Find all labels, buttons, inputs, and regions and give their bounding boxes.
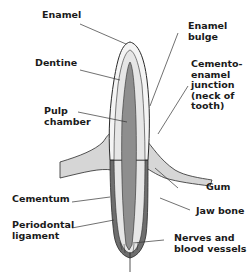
label-enamel-bulge: Enamel bulge	[188, 21, 227, 42]
label-pulp-chamber: Pulp chamber	[44, 106, 91, 127]
label-gum: Gum	[206, 182, 230, 193]
label-periodontal-ligament: Periodontal ligament	[12, 220, 74, 241]
label-cemento-enamel-junction: Cemento- enamel junction (neck of tooth)	[191, 59, 243, 112]
label-nerves-blood-vessels: Nerves and blood vessels	[174, 233, 247, 254]
gum-left	[60, 134, 112, 178]
label-cementum: Cementum	[12, 194, 70, 205]
label-dentine: Dentine	[35, 58, 77, 69]
label-enamel: Enamel	[42, 10, 81, 21]
label-jaw-bone: Jaw bone	[196, 206, 245, 217]
gum-right	[146, 140, 212, 186]
